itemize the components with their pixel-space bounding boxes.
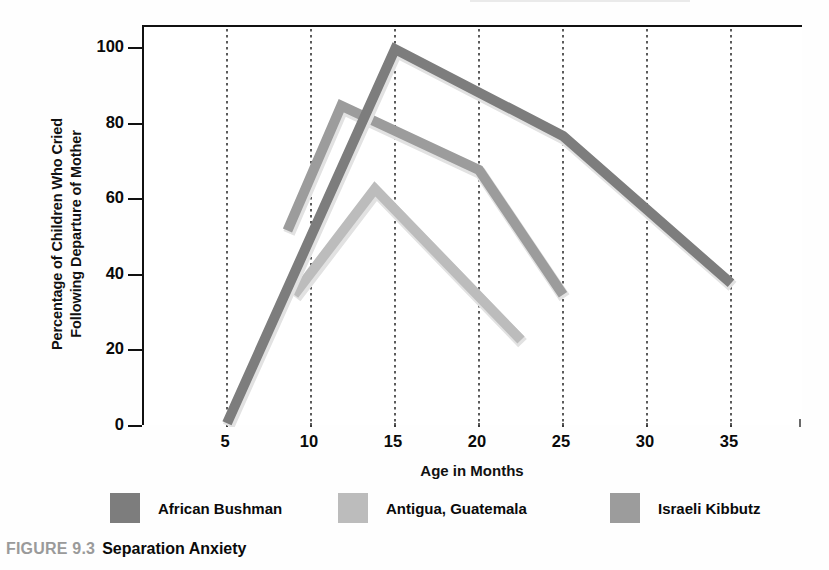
legend-label: African Bushman	[158, 500, 282, 517]
x-tick-label: 5	[195, 432, 255, 451]
y-tick-label: 80	[78, 113, 124, 132]
y-tick-mark	[128, 47, 142, 49]
figure-caption: FIGURE 9.3Separation Anxiety	[6, 540, 246, 558]
y-tick-mark	[128, 198, 142, 200]
legend-label: Antigua, Guatemala	[386, 500, 527, 517]
scan-artifact-top	[470, 0, 690, 2]
figure-title: Separation Anxiety	[102, 540, 246, 557]
legend-label: Israeli Kibbutz	[658, 500, 761, 517]
x-tick-label: 35	[699, 432, 759, 451]
y-tick-mark	[128, 349, 142, 351]
x-tick-label: 30	[615, 432, 675, 451]
figure-container: Percentage of Children Who Cried Followi…	[0, 0, 829, 570]
plot-svg	[144, 27, 804, 427]
y-axis-title-line1: Percentage of Children Who Cried	[48, 24, 67, 444]
y-tick-mark	[128, 274, 142, 276]
x-tick-label: 10	[279, 432, 339, 451]
x-axis-title: Age in Months	[142, 462, 802, 479]
legend-swatch	[610, 493, 640, 523]
y-tick-mark	[128, 425, 142, 427]
legend-swatch	[110, 493, 140, 523]
y-tick-mark	[128, 123, 142, 125]
y-tick-label: 40	[78, 264, 124, 283]
legend-swatch	[338, 493, 368, 523]
x-tick-label: 15	[363, 432, 423, 451]
y-tick-label: 60	[78, 188, 124, 207]
plot-area	[142, 25, 802, 425]
y-tick-label: 20	[78, 339, 124, 358]
y-tick-label: 100	[78, 37, 124, 56]
legend-entry[interactable]: Antigua, Guatemala	[338, 492, 527, 524]
y-tick-label: 0	[78, 415, 124, 434]
x-tick-label: 25	[531, 432, 591, 451]
x-tick-label: 20	[447, 432, 507, 451]
figure-number: FIGURE 9.3	[6, 540, 95, 557]
chart-legend: African BushmanAntigua, GuatemalaIsraeli…	[110, 492, 810, 524]
legend-entry[interactable]: African Bushman	[110, 492, 282, 524]
y-axis-tick-labels: 020406080100	[78, 0, 124, 570]
series-line-shadow	[229, 52, 733, 426]
legend-entry[interactable]: Israeli Kibbutz	[610, 492, 761, 524]
